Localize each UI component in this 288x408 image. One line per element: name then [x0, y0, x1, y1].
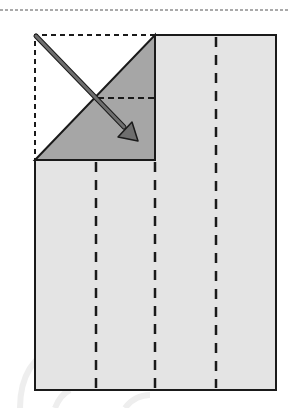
- origami-diagram: [0, 0, 288, 408]
- watermark-arc-3: [125, 395, 150, 408]
- watermark-arc-2: [55, 390, 70, 408]
